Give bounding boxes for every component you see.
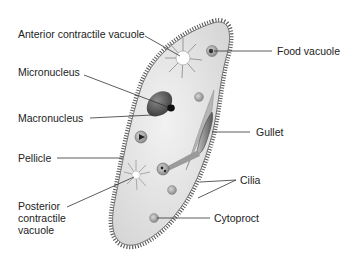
food-vacuole-mid [195, 93, 204, 102]
label-anterior-contractile-vacuole: Anterior contractile vacuole [18, 28, 145, 40]
label-posterior-contractile-vacuole-2: contractile [18, 212, 66, 224]
label-gullet: Gullet [256, 126, 283, 138]
label-posterior-contractile-vacuole-1: Posterior [18, 200, 60, 212]
food-vacuole-left [135, 131, 147, 143]
micronucleus [167, 105, 175, 112]
label-cilia: Cilia [240, 174, 260, 186]
label-food-vacuole: Food vacuole [277, 45, 340, 57]
label-cytoproct: Cytoproct [214, 212, 259, 224]
food-vacuole-forming [157, 163, 169, 175]
label-pellicle: Pellicle [18, 152, 51, 164]
label-posterior-contractile-vacuole-3: vacuole [18, 224, 54, 236]
food-vacuole-lower [168, 186, 177, 195]
label-micronucleus: Micronucleus [18, 66, 80, 78]
label-macronucleus: Macronucleus [18, 112, 83, 124]
